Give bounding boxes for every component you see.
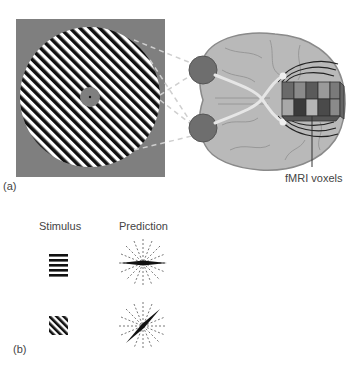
eye-top — [189, 56, 217, 84]
panel-b-label: (b) — [13, 343, 26, 355]
eye-bottom — [189, 114, 217, 142]
prediction-horizontal — [119, 239, 167, 287]
stimulus-oblique-grating — [49, 316, 68, 335]
prediction-oblique — [119, 302, 167, 350]
panel-a-label: (a) — [3, 180, 16, 192]
stimulus-column-header: Stimulus — [39, 220, 81, 232]
stimulus-horizontal-grating — [49, 254, 68, 277]
prediction-column-header: Prediction — [119, 220, 168, 232]
fmri-voxels-label: fMRI voxels — [285, 172, 342, 184]
fmri-voxel-grid — [282, 82, 344, 121]
